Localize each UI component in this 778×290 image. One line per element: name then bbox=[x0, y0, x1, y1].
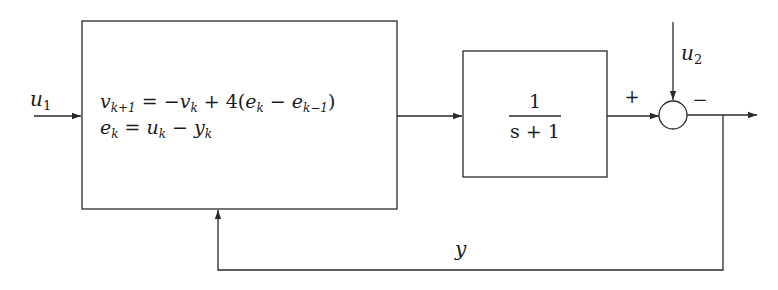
input-u1: u1 bbox=[30, 87, 81, 116]
summing-junction bbox=[659, 101, 687, 129]
plus-sign: + bbox=[624, 86, 639, 107]
controller-equation-line2: ek = uk − yk bbox=[100, 116, 212, 141]
u1-label: u1 bbox=[30, 87, 51, 113]
u2-label: u2 bbox=[681, 41, 702, 67]
feedback-path: y bbox=[218, 115, 723, 270]
plant-block-frame bbox=[463, 51, 607, 177]
plant-block: 1 s + 1 bbox=[463, 51, 607, 177]
controller-block: vk+1 = −vk + 4(ek − ek−1) ek = uk − yk bbox=[82, 21, 397, 209]
transfer-function-numerator: 1 bbox=[529, 90, 541, 112]
controller-block-frame bbox=[82, 21, 397, 209]
transfer-function-denominator: s + 1 bbox=[510, 120, 560, 142]
block-diagram: u1 vk+1 = −vk + 4(ek − ek−1) ek = uk − y… bbox=[0, 0, 778, 290]
controller-equation-line1: vk+1 = −vk + 4(ek − ek−1) bbox=[100, 90, 335, 115]
minus-sign: − bbox=[692, 89, 707, 110]
feedback-line bbox=[218, 115, 723, 270]
feedback-label-y: y bbox=[454, 237, 467, 261]
